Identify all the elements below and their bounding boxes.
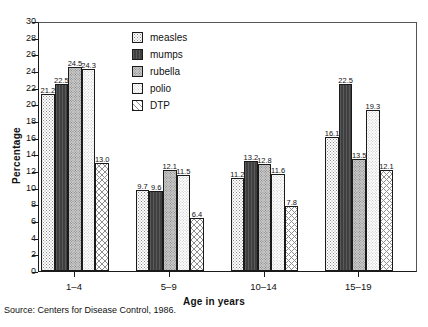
legend-item-polio: polio <box>132 81 187 96</box>
bar-value-label: 7.8 <box>281 199 303 207</box>
bar-value-label: 24.3 <box>78 62 100 70</box>
legend-item-DTP: DTP <box>132 98 187 113</box>
y-tick-label: 20 <box>0 100 36 109</box>
bar-measles-1–4 <box>41 94 55 271</box>
y-tick-label: 2 <box>0 250 36 259</box>
bar-value-label: 12.1 <box>376 163 398 171</box>
bar-value-label: 22.5 <box>335 77 357 85</box>
bar-polio-10–14 <box>271 174 285 271</box>
legend-swatch-DTP <box>132 100 143 111</box>
bar-value-label: 13.0 <box>91 156 113 164</box>
bar-rubella-5–9 <box>163 170 177 271</box>
x-tick-label: 5–9 <box>129 281 209 292</box>
x-tick-label: 15–19 <box>318 281 398 292</box>
bar-value-label: 12.8 <box>254 157 276 165</box>
x-tick-mark <box>264 272 265 277</box>
x-tick-mark <box>358 272 359 277</box>
bar-polio-1–4 <box>82 69 96 272</box>
bar-DTP-5–9 <box>190 218 204 271</box>
bar-polio-5–9 <box>177 175 191 271</box>
x-tick-label: 10–14 <box>224 281 304 292</box>
bar-DTP-10–14 <box>285 206 299 271</box>
legend-item-rubella: rubella <box>132 64 187 79</box>
x-tick-mark <box>169 272 170 277</box>
source-note: Source: Centers for Disease Control, 198… <box>4 305 176 315</box>
y-tick-label: 10 <box>0 184 36 193</box>
y-tick-label: 30 <box>0 17 36 26</box>
bar-chart-figure: Percentage 024681012141618202224262830 2… <box>0 0 428 327</box>
legend-swatch-polio <box>132 83 143 94</box>
y-tick-label: 18 <box>0 117 36 126</box>
y-tick-label: 16 <box>0 134 36 143</box>
bar-rubella-10–14 <box>258 164 272 271</box>
bar-mumps-10–14 <box>244 161 258 271</box>
bar-mumps-1–4 <box>55 84 69 272</box>
legend-label-mumps: mumps <box>150 49 183 60</box>
bar-mumps-5–9 <box>149 191 163 271</box>
bar-mumps-15–19 <box>339 84 353 272</box>
y-tick-label: 4 <box>0 234 36 243</box>
x-tick-mark <box>74 272 75 277</box>
bar-measles-10–14 <box>231 178 245 271</box>
bar-DTP-15–19 <box>380 170 394 271</box>
legend-label-polio: polio <box>150 83 171 94</box>
y-tick-label: 8 <box>0 200 36 209</box>
y-tick-label: 28 <box>0 34 36 43</box>
bar-value-label: 6.4 <box>186 211 208 219</box>
y-tick-label: 24 <box>0 67 36 76</box>
legend-item-mumps: mumps <box>132 47 187 62</box>
legend-label-measles: measles <box>150 32 187 43</box>
bar-measles-5–9 <box>136 190 150 271</box>
legend-swatch-rubella <box>132 66 143 77</box>
legend-label-rubella: rubella <box>150 66 180 77</box>
legend-label-DTP: DTP <box>150 100 170 111</box>
bar-value-label: 11.5 <box>173 168 195 176</box>
y-tick-mark <box>32 272 38 273</box>
legend-item-measles: measles <box>132 30 187 45</box>
y-tick-label: 12 <box>0 167 36 176</box>
bar-rubella-1–4 <box>68 67 82 271</box>
bar-DTP-1–4 <box>95 163 109 271</box>
bar-rubella-15–19 <box>352 159 366 272</box>
plot-area: 21.222.524.524.313.09.79.612.111.56.411.… <box>38 22 417 272</box>
y-tick-label: 22 <box>0 84 36 93</box>
y-tick-label: 6 <box>0 217 36 226</box>
legend-swatch-measles <box>132 32 143 43</box>
bar-value-label: 11.6 <box>267 167 289 175</box>
bar-value-label: 19.3 <box>362 103 384 111</box>
chart-legend: measlesmumpsrubellapolioDTP <box>132 30 187 115</box>
y-tick-label: 26 <box>0 50 36 59</box>
bar-measles-15–19 <box>325 137 339 271</box>
x-tick-label: 1–4 <box>34 281 114 292</box>
legend-swatch-mumps <box>132 49 143 60</box>
y-tick-label: 14 <box>0 150 36 159</box>
y-tick-label: 0 <box>0 267 36 276</box>
bar-polio-15–19 <box>366 110 380 271</box>
